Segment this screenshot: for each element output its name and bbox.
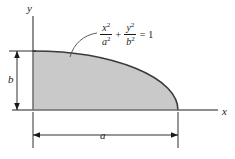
ellipse-equation-label: x2 a2 + y2 b2 = 1 [99, 22, 153, 48]
dimension-label-a: a [100, 130, 106, 141]
equation-fraction-y-over-b: y2 b2 [124, 22, 137, 48]
a-arrowhead-right [171, 132, 178, 138]
x-axis-label: x [222, 106, 227, 117]
equation-x-exponent: 2 [107, 21, 111, 29]
y-axis-label: y [27, 3, 32, 14]
a-arrowhead-left [33, 132, 40, 138]
equation-y-exponent: 2 [131, 21, 135, 29]
figure-container: y x b a x2 a2 + y2 b2 = 1 [0, 0, 235, 159]
equation-numerator-y: y2 [124, 22, 136, 35]
equation-right-hand-side: 1 [148, 29, 153, 40]
equation-equals-sign: = [140, 29, 146, 40]
equation-fraction-x-over-a: x2 a2 [100, 22, 113, 48]
shaded-quarter-ellipse-fill [33, 51, 178, 110]
b-arrowhead-bottom [14, 103, 20, 110]
equation-denominator-b: b2 [124, 35, 137, 47]
equation-b-exponent: 2 [131, 35, 135, 43]
b-arrowhead-top [14, 51, 20, 58]
dimension-label-b: b [8, 74, 14, 85]
equation-plus-operator: + [116, 29, 122, 40]
equation-numerator-x: x2 [100, 22, 112, 35]
equation-denominator-a: a2 [100, 35, 113, 47]
equation-a-exponent: 2 [107, 35, 111, 43]
